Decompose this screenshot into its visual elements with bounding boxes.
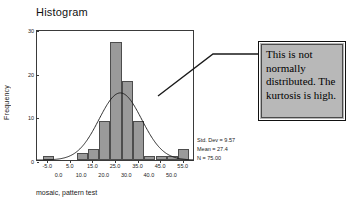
plot-area: 0102030 — [36, 30, 194, 161]
x-tick-55.0: 55.0 — [177, 163, 188, 169]
normal-curve-overlay — [37, 31, 193, 160]
y-tick-10: 10 — [28, 115, 37, 121]
x-tick--5.0: -5.0 — [43, 163, 52, 169]
x-tick-0.0: 0.0 — [55, 172, 63, 178]
x-tick-5.0: 5.0 — [66, 163, 74, 169]
annotation-callout-inner: This is not normally distributed. The ku… — [261, 44, 343, 118]
y-tick-20: 20 — [28, 72, 37, 78]
x-tick-25.0: 25.0 — [110, 163, 121, 169]
chart-title: Histogram — [36, 6, 88, 18]
stat-n: N = 75.00 — [197, 154, 235, 163]
x-axis-ticks-primary: -5.05.015.025.035.045.055.0 — [36, 163, 194, 171]
statistics-block: Std. Dev = 9.57 Mean = 27.4 N = 75.00 — [197, 136, 235, 163]
x-tick-30.0: 30.0 — [121, 172, 132, 178]
stat-std-dev: Std. Dev = 9.57 — [197, 136, 235, 145]
x-axis-caption: mosaic, pattern test — [36, 189, 97, 196]
x-tick-20.0: 20.0 — [98, 172, 109, 178]
y-tick-30: 30 — [28, 28, 37, 34]
x-tick-50.0: 50.0 — [166, 172, 177, 178]
y-axis-label: Frequency — [3, 85, 17, 120]
histogram-figure: Histogram Frequency 0102030 -5.05.015.02… — [0, 0, 353, 209]
x-tick-10.0: 10.0 — [76, 172, 87, 178]
x-tick-45.0: 45.0 — [155, 163, 166, 169]
stat-mean: Mean = 27.4 — [197, 145, 235, 154]
annotation-callout-text: This is not normally distributed. The ku… — [266, 48, 338, 102]
x-tick-40.0: 40.0 — [143, 172, 154, 178]
x-tick-35.0: 35.0 — [132, 163, 143, 169]
x-tick-15.0: 15.0 — [87, 163, 98, 169]
x-axis-ticks-secondary: 0.010.020.030.040.050.0 — [36, 172, 194, 180]
annotation-callout-box: This is not normally distributed. The ku… — [258, 41, 346, 121]
